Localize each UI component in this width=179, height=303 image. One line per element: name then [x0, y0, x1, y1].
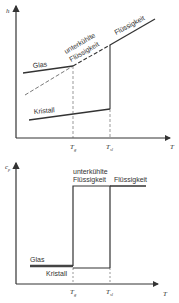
- h-axis-label: h: [6, 7, 10, 15]
- diagram-canvas: h T Tg Tsl Glas unterkühlte Flüssigkeit …: [0, 0, 179, 303]
- t-axis-label-bottom: T: [163, 290, 168, 298]
- supercooled-label-line1-bottom: unterkühlte: [73, 168, 108, 175]
- heat-capacity-chart: cp T Tg Tsl unterkühlte Flüssigkeit Flüs…: [5, 163, 168, 298]
- tsl-tick-label-top: Tsl: [106, 143, 114, 152]
- supercooled-cp-line: [73, 186, 110, 268]
- tg-tick-label-bottom: Tg: [70, 288, 77, 297]
- enthalpy-chart: h T Tg Tsl Glas unterkühlte Flüssigkeit …: [6, 6, 175, 152]
- cp-axis-label: cp: [5, 163, 11, 172]
- glass-line: [23, 66, 73, 73]
- supercooled-label-line2-bottom: Flüssigkeit: [73, 176, 106, 184]
- glass-label-bottom: Glas: [30, 256, 45, 263]
- tsl-tick-label-bottom: Tsl: [106, 288, 114, 297]
- glass-label-top: Glas: [32, 60, 48, 69]
- liquid-label-bottom: Flüssigkeit: [114, 176, 147, 184]
- crystal-label-bottom: Kristall: [46, 270, 67, 277]
- crystal-label-top: Kristall: [33, 106, 55, 115]
- t-axis-label-top: T: [170, 143, 175, 151]
- tg-tick-label-top: Tg: [70, 143, 77, 152]
- supercooled-extension-line: [25, 66, 73, 95]
